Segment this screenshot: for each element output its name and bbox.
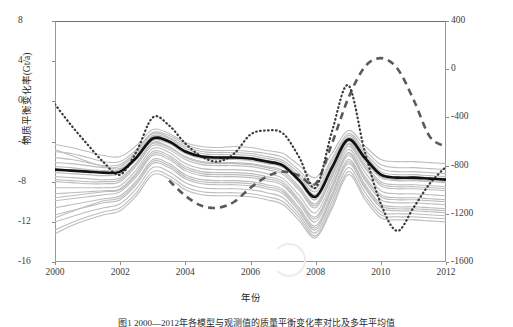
- tick-mark: [52, 21, 55, 22]
- tick-mark: [55, 262, 56, 265]
- ensemble-lines: [55, 129, 446, 238]
- tick-mark: [52, 182, 55, 183]
- x-tick-2000: 2000: [37, 268, 73, 278]
- y-tick-right--1200: -1200: [451, 209, 473, 219]
- tick-mark: [316, 262, 317, 265]
- chart-canvas: [55, 21, 446, 262]
- figure-container: 物质平衡变化率(Gt/a) 冰川物质平衡(mm/a) 年份 图1 2000—20…: [0, 0, 513, 327]
- tick-mark: [185, 262, 186, 265]
- dashed-series-line: [169, 58, 446, 208]
- tick-mark: [120, 262, 121, 265]
- y-tick-right--400: -400: [451, 112, 468, 122]
- y-tick-left--8: -8: [18, 177, 26, 187]
- x-tick-2004: 2004: [167, 268, 203, 278]
- tick-mark: [446, 69, 449, 70]
- tick-mark: [446, 262, 447, 265]
- y-tick-left--12: -12: [18, 217, 31, 227]
- x-tick-2002: 2002: [102, 268, 138, 278]
- tick-mark: [52, 61, 55, 62]
- y-tick-right--800: -800: [451, 161, 468, 171]
- x-axis-title: 年份: [55, 290, 446, 304]
- x-tick-2010: 2010: [363, 268, 399, 278]
- y-tick-right-400: 400: [451, 16, 465, 26]
- y-tick-left-0: 0: [18, 96, 23, 106]
- tick-mark: [446, 214, 449, 215]
- chart-svg: [55, 21, 446, 262]
- x-tick-2012: 2012: [428, 268, 464, 278]
- tick-mark: [381, 262, 382, 265]
- tick-mark: [52, 101, 55, 102]
- tick-mark: [52, 222, 55, 223]
- y-tick-left--4: -4: [18, 137, 26, 147]
- tick-mark: [251, 262, 252, 265]
- y-tick-left--16: -16: [18, 257, 31, 267]
- figure-caption: 图1 2000—2012年各模型与观测值的质量平衡变化率对比及多年平均值: [0, 317, 513, 327]
- y-tick-left-4: 4: [18, 56, 23, 66]
- tick-mark: [52, 142, 55, 143]
- tick-mark: [446, 166, 449, 167]
- x-tick-2008: 2008: [298, 268, 334, 278]
- y-tick-left-8: 8: [18, 16, 23, 26]
- tick-mark: [446, 21, 449, 22]
- tick-mark: [446, 117, 449, 118]
- y-tick-right-0: 0: [451, 64, 456, 74]
- x-tick-2006: 2006: [233, 268, 269, 278]
- y-tick-right--1600: -1600: [451, 257, 473, 267]
